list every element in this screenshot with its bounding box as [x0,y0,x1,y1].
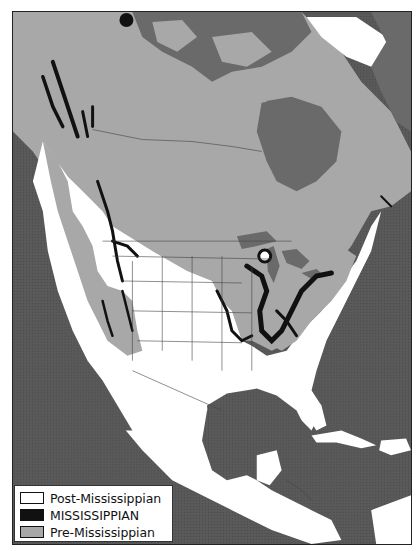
legend-item-post-mississippian: Post-Mississippian [20,490,167,506]
legend-label: MISSISSIPPIAN [50,508,139,523]
pre-mississippian-swatch [20,526,44,538]
map-legend: Post-Mississippian MISSISSIPPIAN Pre-Mis… [14,485,173,542]
map-frame [12,11,412,545]
michigan-basin [259,250,271,262]
legend-label: Post-Mississippian [50,491,161,506]
legend-item-mississippian: MISSISSIPPIAN [20,507,167,523]
arctic-black-patch [119,13,133,27]
legend-label: Pre-Mississippian [50,525,155,540]
mississippian-swatch [20,509,44,521]
post-mississippian-swatch [20,492,44,504]
legend-item-pre-mississippian: Pre-Mississippian [20,524,167,540]
north-america-map [13,12,411,544]
